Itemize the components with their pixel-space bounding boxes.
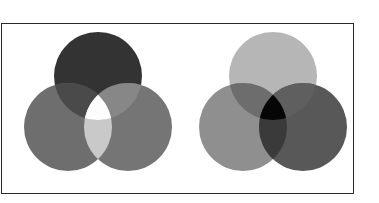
figure-frame <box>1 23 354 194</box>
additive-venn-svg <box>10 24 186 193</box>
subtractive-venn-svg <box>185 24 361 193</box>
page-root <box>0 0 379 203</box>
subtractive-mixing-diagram <box>185 24 361 193</box>
additive-mixing-diagram <box>10 24 186 193</box>
